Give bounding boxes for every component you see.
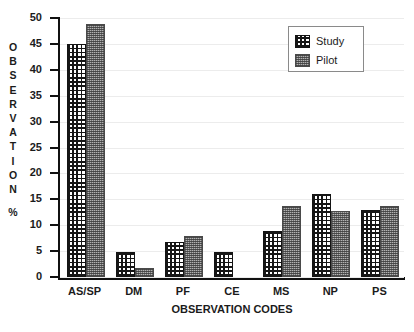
pilot-pattern-swatch xyxy=(295,54,310,67)
bar-group xyxy=(214,18,252,277)
y-axis-tick-mark xyxy=(50,276,58,278)
gridline xyxy=(60,277,404,278)
y-axis-tick-label: 0 xyxy=(16,270,42,282)
bar-pilot xyxy=(380,206,399,277)
x-axis-tick-label: NP xyxy=(306,285,355,297)
y-axis-tick-mark xyxy=(50,17,58,19)
bar-pilot xyxy=(86,24,105,277)
x-axis-tick-label: AS/SP xyxy=(60,285,109,297)
x-axis-title: OBSERVATION CODES xyxy=(60,303,404,315)
x-axis-tick-label: MS xyxy=(257,285,306,297)
bar-group xyxy=(67,18,105,277)
y-axis-tick-label: 10 xyxy=(16,218,42,230)
legend: StudyPilot xyxy=(288,26,364,72)
legend-label: Pilot xyxy=(316,54,337,66)
bar-pilot xyxy=(282,206,301,277)
y-axis-tick-label: 45 xyxy=(16,37,42,49)
y-axis-tick-mark xyxy=(50,147,58,149)
y-axis-tick-mark xyxy=(50,121,58,123)
y-axis-tick-label: 40 xyxy=(16,63,42,75)
bar-study xyxy=(67,44,86,277)
study-pattern-swatch xyxy=(295,35,310,48)
bar-pilot xyxy=(135,268,154,277)
x-axis-tick-labels: AS/SPDMPFCEMSNPPS xyxy=(60,285,404,301)
y-axis-tick-label: 5 xyxy=(16,244,42,256)
bar-group xyxy=(361,18,399,277)
x-axis-tick-label: PF xyxy=(158,285,207,297)
bar-pilot xyxy=(331,211,350,277)
bar-chart: OBSERVATION% 50454035302520151050 AS/SPD… xyxy=(0,0,414,332)
x-axis-tick-label: DM xyxy=(109,285,158,297)
bar-study xyxy=(361,210,380,277)
y-axis-tick-mark xyxy=(50,198,58,200)
y-axis-tick-mark xyxy=(50,250,58,252)
x-axis-tick-label: CE xyxy=(207,285,256,297)
bar-study xyxy=(116,252,135,277)
legend-entry: Pilot xyxy=(295,51,358,69)
y-axis-tick-label: 35 xyxy=(16,89,42,101)
y-axis-tick-mark xyxy=(50,172,58,174)
bar-study xyxy=(165,242,184,277)
y-axis-tick-label: 15 xyxy=(16,192,42,204)
y-axis-tick-label: 25 xyxy=(16,141,42,153)
bar-group xyxy=(116,18,154,277)
y-axis-tick-label: 20 xyxy=(16,166,42,178)
legend-label: Study xyxy=(316,35,344,47)
y-axis-tick-label: 50 xyxy=(16,11,42,23)
bar-study xyxy=(214,252,233,277)
bar-pilot xyxy=(184,236,203,277)
bar-study xyxy=(312,194,331,277)
y-axis-tick-mark xyxy=(50,224,58,226)
bar-study xyxy=(263,231,282,277)
x-axis-tick-label: PS xyxy=(355,285,404,297)
legend-entry: Study xyxy=(295,32,358,50)
y-axis-tick-mark xyxy=(50,43,58,45)
bar-group xyxy=(165,18,203,277)
y-axis-tick-mark xyxy=(50,69,58,71)
y-axis-tick-label: 30 xyxy=(16,115,42,127)
y-axis-ticks: 50454035302520151050 xyxy=(0,0,60,332)
y-axis-tick-mark xyxy=(50,95,58,97)
